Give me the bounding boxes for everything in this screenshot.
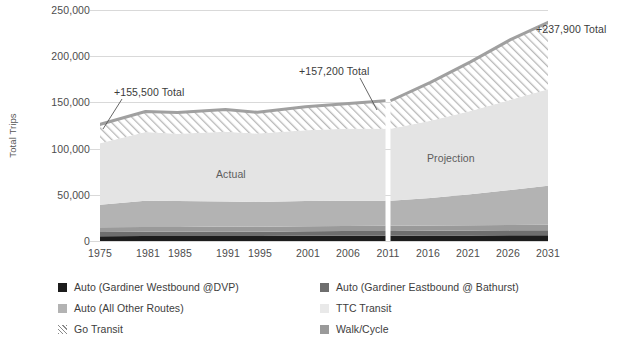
legend-swatch-icon	[58, 283, 67, 292]
legend-label: Auto (All Other Routes)	[74, 302, 184, 314]
plot-area	[100, 10, 548, 241]
y-tick-label: 200,000	[32, 50, 90, 62]
x-tick-label: 2001	[296, 247, 320, 259]
x-tick-label: 2006	[336, 247, 360, 259]
x-tick-label: 1985	[168, 247, 192, 259]
legend-label: Auto (Gardiner Westbound @DVP)	[74, 281, 239, 293]
x-tick-label: 2031	[536, 247, 560, 259]
legend-label: Go Transit	[74, 323, 123, 335]
area-band	[100, 201, 386, 228]
total-annotation: +155,500 Total	[114, 86, 184, 98]
x-tick-label: 2011	[377, 247, 400, 259]
x-tick-label: 2016	[416, 247, 440, 259]
region-label: Actual	[216, 168, 246, 180]
legend-item[interactable]: Go Transit	[58, 323, 123, 335]
legend-item[interactable]: Auto (Gardiner Westbound @DVP)	[58, 281, 239, 293]
y-tick-mark	[90, 10, 100, 11]
y-axis-title: Total Trips	[7, 100, 18, 172]
legend-item[interactable]: Auto (Gardiner Eastbound @ Bathurst)	[320, 281, 519, 293]
total-annotation: +237,900 Total	[536, 23, 606, 35]
area-band	[391, 235, 549, 241]
y-tick-mark	[90, 56, 100, 57]
legend-item[interactable]: TTC Transit	[320, 302, 391, 314]
y-tick-mark	[90, 241, 100, 242]
y-tick-label: 150,000	[32, 96, 90, 108]
x-tick-label: 1981	[136, 247, 160, 259]
x-tick-label: 2026	[496, 247, 520, 259]
y-tick-label: 50,000	[32, 189, 90, 201]
legend-swatch-icon	[320, 304, 329, 313]
y-tick-mark	[90, 195, 100, 196]
x-tick-label: 2021	[456, 247, 480, 259]
legend-swatch-icon	[320, 325, 329, 334]
legend-swatch-icon	[320, 283, 329, 292]
area-band	[100, 236, 386, 241]
x-tick-label: 1995	[248, 247, 272, 259]
stacked-area-chart: Total Trips 050,000100,000150,000200,000…	[0, 0, 619, 349]
legend-item[interactable]: Auto (All Other Routes)	[58, 302, 184, 314]
region-label: Projection	[427, 152, 475, 164]
y-tick-label: 0	[32, 235, 90, 247]
area-band	[100, 231, 386, 236]
area-band	[391, 225, 549, 231]
legend-label: Walk/Cycle	[336, 323, 389, 335]
y-tick-label: 100,000	[32, 143, 90, 155]
y-tick-mark	[90, 102, 100, 103]
area-band	[100, 129, 386, 205]
total-annotation: +157,200 Total	[299, 65, 369, 77]
legend-swatch-icon	[58, 325, 67, 334]
legend-label: Auto (Gardiner Eastbound @ Bathurst)	[336, 281, 519, 293]
legend-label: TTC Transit	[336, 302, 391, 314]
legend-swatch-icon	[58, 304, 67, 313]
area-band	[391, 230, 549, 235]
gridline	[100, 241, 548, 242]
y-tick-label: 250,000	[32, 4, 90, 16]
area-series-layer	[100, 10, 548, 241]
legend-item[interactable]: Walk/Cycle	[320, 323, 389, 335]
x-tick-label: 1975	[88, 247, 112, 259]
chart-legend: Auto (Gardiner Westbound @DVP)Auto (Gard…	[0, 281, 619, 343]
x-tick-label: 1991	[216, 247, 240, 259]
y-tick-mark	[90, 149, 100, 150]
